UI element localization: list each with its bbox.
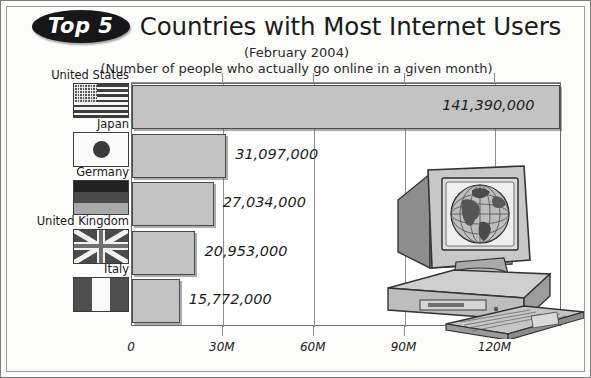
- country-name-label: United States: [11, 69, 129, 82]
- country-block-united-states: United States: [11, 69, 129, 118]
- axis-top-rule: [131, 82, 561, 83]
- bar-row: 15,772,000: [132, 278, 562, 327]
- country-name-label: Italy: [11, 263, 129, 276]
- tick-120M: [494, 326, 495, 336]
- subtitle-date: (February 2004): [1, 45, 591, 60]
- bar-value-label: 141,390,000: [442, 97, 534, 113]
- title-row: Top 5 Countries with Most Internet Users: [1, 7, 591, 45]
- flag-united-kingdom-icon: [73, 229, 129, 264]
- tick-label-90M: 90M: [391, 340, 417, 354]
- tick-90M: [404, 326, 405, 336]
- bar-value-label: 20,953,000: [204, 243, 287, 259]
- bar-value-label: 27,034,000: [223, 194, 306, 210]
- tick-60M: [313, 326, 314, 336]
- top5-badge-label: Top 5: [48, 14, 114, 38]
- country-block-italy: Italy: [11, 263, 129, 312]
- bar-value-label: 15,772,000: [189, 291, 272, 307]
- tick-label-120M: 120M: [478, 340, 511, 354]
- bar-row: 20,953,000: [132, 230, 562, 279]
- bar-row: 31,097,000: [132, 133, 562, 182]
- bar-row: 141,390,000: [132, 84, 562, 133]
- page-title: Countries with Most Internet Users: [140, 12, 562, 41]
- bar-italy: [132, 279, 180, 323]
- bar-value-label: 31,097,000: [235, 146, 318, 162]
- tick-label-60M: 60M: [300, 340, 326, 354]
- tick-30M: [222, 326, 223, 336]
- country-block-germany: Germany: [11, 166, 129, 215]
- chart-plot-area: 141,390,00031,097,00027,034,00020,953,00…: [131, 83, 561, 326]
- country-block-japan: Japan: [11, 118, 129, 167]
- flag-germany-icon: [73, 180, 129, 215]
- country-block-united-kingdom: United Kingdom: [11, 215, 129, 264]
- tick-label-30M: 30M: [209, 340, 235, 354]
- flag-japan-icon: [73, 132, 129, 167]
- tick-label-0: 0: [127, 340, 135, 354]
- bar-united-kingdom: [132, 231, 195, 275]
- flag-italy-icon: [73, 277, 129, 312]
- infographic-page: Top 5 Countries with Most Internet Users…: [0, 0, 591, 378]
- top5-badge: Top 5: [32, 10, 130, 43]
- bar-japan: [132, 134, 226, 178]
- country-name-label: United Kingdom: [11, 215, 129, 228]
- flag-united-states-icon: [73, 83, 129, 118]
- bar-germany: [132, 182, 214, 226]
- bar-row: 27,034,000: [132, 181, 562, 230]
- country-name-label: Japan: [11, 118, 129, 131]
- country-name-label: Germany: [11, 166, 129, 179]
